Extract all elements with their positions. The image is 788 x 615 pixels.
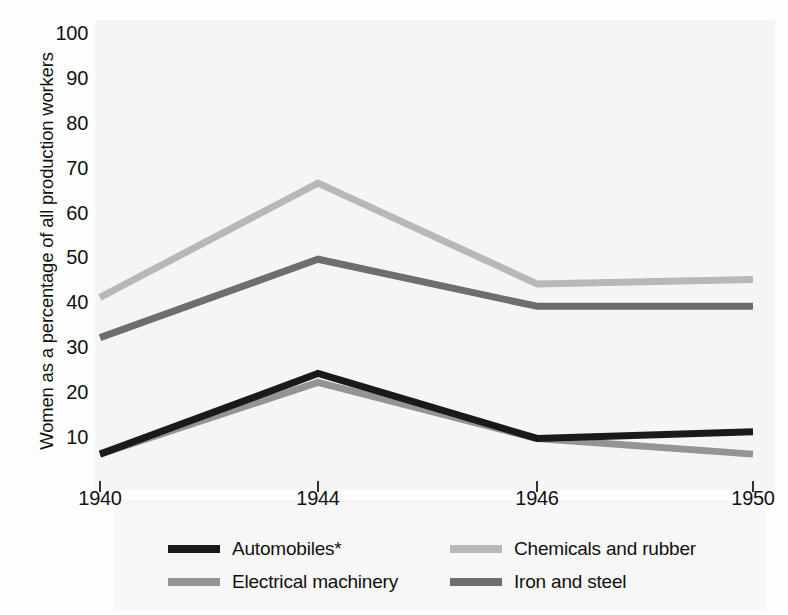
legend-item-chemicals-and-rubber[interactable]: Chemicals and rubber: [450, 538, 728, 560]
chart-page: Women as a percentage of all production …: [0, 0, 788, 615]
legend-label: Iron and steel: [514, 571, 626, 593]
x-tick-label: 1940: [78, 487, 121, 510]
legend-item-automobiles[interactable]: Automobiles*: [168, 538, 450, 560]
x-tick-label: 1946: [515, 487, 558, 510]
x-axis-ticks: [100, 481, 753, 492]
legend-item-electrical-machinery[interactable]: Electrical machinery: [168, 571, 450, 593]
legend-item-iron-and-steel[interactable]: Iron and steel: [450, 571, 728, 593]
legend-label: Chemicals and rubber: [514, 538, 696, 560]
x-tick-label: 1950: [731, 487, 774, 510]
series-layer: [100, 183, 753, 454]
series-line: [100, 259, 753, 337]
legend-swatch-icon: [168, 545, 220, 553]
legend-label: Automobiles*: [232, 538, 342, 560]
series-line: [100, 373, 753, 454]
legend-swatch-icon: [168, 578, 220, 586]
legend-swatch-icon: [450, 578, 502, 586]
line-chart: [0, 0, 788, 615]
chart-legend: Automobiles* Chemicals and rubber Electr…: [168, 532, 728, 598]
legend-swatch-icon: [450, 545, 502, 553]
plot-area-wrapper: Women as a percentage of all production …: [0, 0, 788, 615]
x-tick-label: 1944: [296, 487, 339, 510]
legend-label: Electrical machinery: [232, 571, 398, 593]
